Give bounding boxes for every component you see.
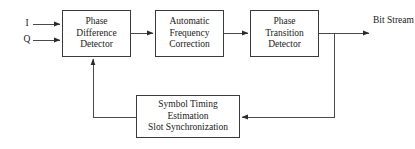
block-automatic-frequency-correction[interactable]: Automatic Frequency Correction (155, 10, 224, 57)
output-label-bit-stream: Bit Stream (373, 15, 411, 27)
block-label-line-3: Detector (80, 39, 113, 51)
block-label-line-3: Correction (169, 39, 210, 51)
block-phase-difference-detector[interactable]: Phase Difference Detector (62, 10, 131, 57)
block-label-line-1: Phase (85, 16, 107, 28)
output-label-line-2: Stream (387, 15, 414, 25)
block-diagram: Phase Difference Detector Automatic Freq… (0, 0, 415, 149)
block-label-line-1: Automatic (169, 16, 209, 28)
block-label-line-3: Detector (268, 39, 301, 51)
output-label-line-1: Bit (373, 15, 385, 25)
block-label-line-1: Phase (273, 16, 295, 28)
block-symbol-timing-estimation[interactable]: Symbol Timing Estimation Slot Synchroniz… (136, 95, 240, 138)
input-label-i: I (22, 18, 32, 30)
block-label-line-2: Transition (265, 28, 304, 40)
block-label-line-3: Slot Synchronization (148, 122, 228, 134)
block-label-line-2: Difference (76, 28, 116, 40)
block-phase-transition-detector[interactable]: Phase Transition Detector (250, 10, 319, 57)
block-label-line-2: Frequency (169, 28, 209, 40)
block-label-line-1: Symbol Timing (158, 99, 217, 111)
block-label-line-2: Estimation (167, 111, 208, 123)
wire-ste-to-pdd (93, 59, 136, 117)
input-label-q: Q (21, 34, 33, 46)
